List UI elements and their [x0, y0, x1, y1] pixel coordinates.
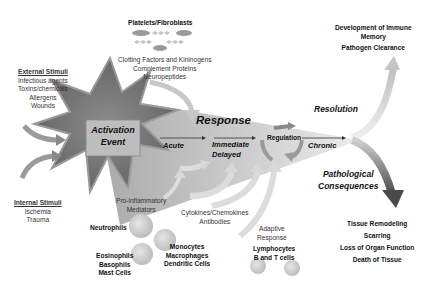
lymphocytes-line: Lymphocytes [253, 245, 295, 254]
pro-inflammatory-line: Pro-inflammatory [116, 197, 166, 206]
platelets-title: Platelets/Fibroblasts [128, 19, 193, 28]
factor-clotting: Clotting Factors and Kininogens [118, 56, 211, 65]
stimulus-item: Ischemia [14, 208, 62, 217]
consequences-line: Consequences [318, 180, 378, 192]
lymphocytes-label: Lymphocytes B and T cells [253, 245, 295, 262]
b-t-cells-line: B and T cells [253, 254, 295, 263]
outcome-remodeling: Tissue Remodeling [340, 218, 414, 230]
adaptive-line: Adaptive [257, 225, 287, 234]
adaptive-label: Adaptive Response [257, 225, 287, 242]
external-stimuli: External Stimuli Infectious agents Toxin… [18, 68, 68, 111]
outcome-clearance: Pathogen Clearance [335, 44, 412, 53]
response-label: Response [196, 114, 251, 126]
stimulus-item: Toxins/chemicals [18, 85, 68, 94]
neutrophil-cell [129, 214, 153, 238]
outcome-scarring: Scarring [340, 230, 414, 242]
eosinophil-cell [131, 243, 153, 265]
resolution-outcomes: Development of Immune Memory Pathogen Cl… [335, 24, 412, 53]
lymphocyte-cell-2 [284, 260, 300, 276]
activation-line: Activation [86, 124, 140, 136]
pathological-label: Pathological Consequences [318, 168, 378, 192]
pro-inflammatory-label: Pro-inflammatory Mediators [116, 197, 166, 214]
pathological-line: Pathological [318, 168, 378, 180]
internal-stimuli: Internal Stimuli Ischemia Trauma [14, 199, 62, 225]
delayed-line: Delayed [212, 150, 249, 160]
activation-event-label: Activation Event [86, 124, 140, 148]
outcome-memory: Development of Immune [335, 24, 412, 33]
internal-stimuli-title: Internal Stimuli [14, 199, 62, 208]
eosinophils-label: Eosinophils Basophils Mast Cells [96, 252, 133, 278]
platelet-factors: Clotting Factors and Kininogens Compleme… [118, 56, 211, 82]
cytokines-label: Cytokines/Chemokines Antibodies [181, 209, 248, 226]
factor-complement: Complement Proteins [118, 65, 211, 74]
outcome-tissue-death: Death of Tissue [340, 254, 414, 266]
mast-cells-line: Mast Cells [96, 269, 133, 278]
response-line: Response [257, 234, 287, 243]
macrophages-line: Macrophages [164, 252, 210, 261]
event-line: Event [86, 136, 140, 148]
stimulus-item: Trauma [14, 216, 62, 225]
regulation-label: Regulation [267, 134, 301, 143]
cytokines-line: Cytokines/Chemokines [181, 209, 248, 218]
pathological-outcomes: Tissue Remodeling Scarring Loss of Organ… [340, 218, 414, 266]
dendritic-cells-line: Dendritic Cells [164, 260, 210, 269]
basophils-line: Basophils [96, 261, 133, 270]
neutrophils-label: Neutrophils [90, 224, 127, 233]
outcome-organ-loss: Loss of Organ Function [340, 242, 414, 254]
monocytes-line: Monocytes [164, 243, 210, 252]
factor-neuropeptides: Neuropeptides [118, 73, 211, 82]
chronic-label: Chronic [308, 141, 336, 150]
stimulus-item: Wounds [18, 102, 68, 111]
eosinophils-line: Eosinophils [96, 252, 133, 261]
mediators-line: Mediators [116, 206, 166, 215]
acute-label: Acute [163, 141, 184, 150]
immediate-delayed-label: Immediate Delayed [212, 140, 249, 160]
stimulus-item: Allergens [18, 94, 68, 103]
external-stimuli-title: External Stimuli [18, 68, 68, 77]
stimulus-item: Infectious agents [18, 77, 68, 86]
monocytes-label: Monocytes Macrophages Dendritic Cells [164, 243, 210, 269]
immediate-line: Immediate [212, 140, 249, 150]
outcome-memory-2: Memory [335, 33, 412, 42]
resolution-label: Resolution [314, 104, 358, 114]
antibodies-line: Antibodies [181, 218, 248, 227]
